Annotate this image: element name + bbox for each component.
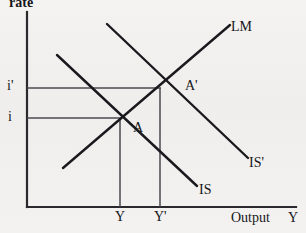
curve-is (57, 55, 197, 186)
curve-label-is-prime: IS' (249, 156, 264, 170)
point-label-a: A (133, 121, 143, 135)
curve-label-lm: LM (231, 20, 252, 34)
x-axis-title: Output (231, 211, 270, 225)
point-label-a-prime: A' (185, 79, 198, 93)
curve-lm (63, 25, 230, 168)
x-tick-label-y: Y (115, 210, 125, 224)
y-tick-label-i-prime: i' (7, 79, 13, 93)
x-tick-label-y-prime: Y' (154, 210, 167, 224)
x-axis-variable-label: Y (288, 211, 298, 225)
y-axis-title: rate (9, 0, 33, 10)
islm-diagram-figure: rate LM IS' IS A' A i' i Y Y' Output Y (0, 0, 306, 233)
y-tick-label-i: i (8, 110, 12, 124)
diagram-canvas (0, 0, 306, 233)
curve-label-is: IS (199, 183, 211, 197)
curve-is-prime (107, 24, 248, 158)
